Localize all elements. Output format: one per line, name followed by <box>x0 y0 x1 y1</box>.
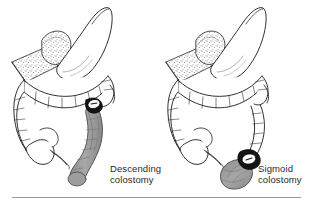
caption-descending-colostomy: Descending colostomy <box>110 163 161 185</box>
ascending-colon <box>168 80 184 152</box>
descending-colon-shaded <box>68 105 103 186</box>
stoma-descending <box>85 98 102 113</box>
colostomy-illustration: Descending colostomy Sigmoid colostomy <box>0 0 313 206</box>
footer-divider <box>12 197 301 198</box>
cecum-and-appendix <box>180 128 223 169</box>
cecum-and-appendix <box>26 128 69 169</box>
transverse-colon-haustra <box>178 76 264 108</box>
stoma-sigmoid <box>238 150 261 170</box>
ascending-colon <box>14 80 30 152</box>
caption-sigmoid-colostomy: Sigmoid colostomy <box>258 163 302 185</box>
